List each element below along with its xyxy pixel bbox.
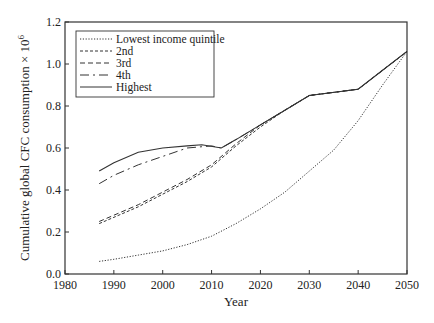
x-tick-label: 2040 bbox=[346, 278, 370, 292]
y-tick-label: 1.0 bbox=[46, 57, 61, 71]
y-tick-label: 0.4 bbox=[46, 183, 61, 197]
legend-label: 3rd bbox=[116, 57, 132, 69]
x-axis: 19801990200020102020203020402050 bbox=[53, 270, 419, 292]
y-tick-label: 0.6 bbox=[46, 141, 61, 155]
legend-label: 4th bbox=[116, 69, 131, 81]
x-tick-label: 2050 bbox=[395, 278, 419, 292]
line-chart: 19801990200020102020203020402050 0.00.20… bbox=[0, 0, 434, 323]
legend: Lowest income quintile2nd3rd4thHighest bbox=[76, 31, 225, 97]
legend-label: Highest bbox=[116, 81, 153, 94]
x-tick-label: 2020 bbox=[248, 278, 272, 292]
x-tick-label: 1990 bbox=[102, 278, 126, 292]
y-tick-label: 0.0 bbox=[46, 267, 61, 281]
x-axis-title: Year bbox=[224, 294, 249, 309]
x-tick-label: 2030 bbox=[297, 278, 321, 292]
y-axis-title-main: Cumulative global CFC consumption × 10 bbox=[17, 40, 32, 261]
y-axis-title-exponent: 6 bbox=[16, 35, 26, 40]
y-tick-label: 1.2 bbox=[46, 15, 61, 29]
x-tick-label: 2000 bbox=[151, 278, 175, 292]
y-tick-label: 0.8 bbox=[46, 99, 61, 113]
x-tick-label: 2010 bbox=[200, 278, 224, 292]
y-tick-label: 0.2 bbox=[46, 225, 61, 239]
y-axis-title: Cumulative global CFC consumption × 106 bbox=[16, 35, 32, 261]
legend-label: 2nd bbox=[116, 45, 134, 57]
